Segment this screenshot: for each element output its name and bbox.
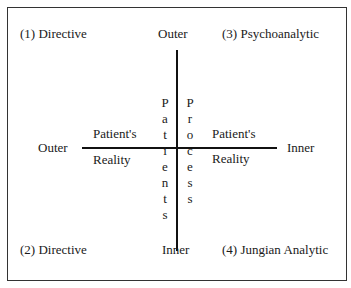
letter: e bbox=[160, 159, 170, 175]
left-patients-label: Patient's bbox=[93, 127, 137, 140]
vertical-axis-bottom-label: Inner bbox=[162, 243, 189, 256]
horizontal-axis-left-label: Outer bbox=[38, 141, 68, 154]
letter: s bbox=[160, 207, 170, 223]
quadrant-4-label: (4) Jungian Analytic bbox=[222, 243, 328, 256]
right-reality-label: Reality bbox=[212, 152, 250, 165]
vertical-axis-top-label: Outer bbox=[158, 27, 188, 40]
letter: P bbox=[185, 95, 195, 111]
letter: s bbox=[185, 191, 195, 207]
letter: s bbox=[185, 175, 195, 191]
left-reality-label: Reality bbox=[93, 153, 131, 166]
letter: P bbox=[160, 95, 170, 111]
quadrant-2-label: (2) Directive bbox=[20, 243, 87, 256]
letter: c bbox=[185, 143, 195, 159]
letter: r bbox=[185, 111, 195, 127]
vertical-axis-line bbox=[176, 50, 178, 251]
letter: a bbox=[160, 111, 170, 127]
quadrant-3-label: (3) Psychoanalytic bbox=[222, 27, 319, 40]
letter: t bbox=[160, 127, 170, 143]
letter: e bbox=[185, 159, 195, 175]
letter: i bbox=[160, 143, 170, 159]
letter: n bbox=[160, 175, 170, 191]
horizontal-axis-right-label: Inner bbox=[287, 141, 314, 154]
horizontal-axis-line bbox=[82, 147, 277, 149]
process-vertical-text: P r o c e s s bbox=[185, 95, 195, 207]
quadrant-1-label: (1) Directive bbox=[20, 27, 87, 40]
letter: o bbox=[185, 127, 195, 143]
patients-vertical-text: P a t i e n t s bbox=[160, 95, 170, 223]
letter: t bbox=[160, 191, 170, 207]
right-patients-label: Patient's bbox=[212, 127, 256, 140]
